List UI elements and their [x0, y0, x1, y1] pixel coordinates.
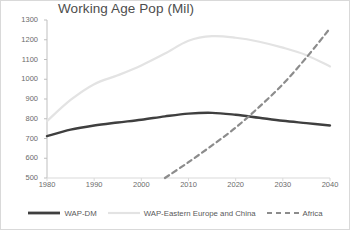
y-tick-label: 1000 [12, 75, 38, 83]
x-tick-label: 1990 [79, 181, 109, 189]
dashed-line-swatch [266, 209, 300, 217]
legend-label-2: Africa [303, 209, 323, 218]
series-line-0 [47, 113, 330, 136]
legend-entry-1[interactable]: WAP-Eastern Europe and China [107, 209, 256, 218]
x-tick-label: 2010 [174, 181, 204, 189]
x-tick-label: 2020 [221, 181, 251, 189]
legend-entry-0[interactable]: WAP-DM [27, 209, 96, 218]
series-line-2 [165, 28, 330, 178]
solid-line-swatch [27, 209, 61, 217]
chart-container: Working Age Pop (Mil) 500600700800900100… [0, 0, 350, 230]
x-tick-label: 2000 [126, 181, 156, 189]
light-line-swatch [107, 209, 141, 217]
legend-entry-2[interactable]: Africa [266, 209, 323, 218]
y-tick-label: 1200 [12, 36, 38, 44]
legend-label-0: WAP-DM [64, 209, 96, 218]
x-tick-label: 2040 [315, 181, 345, 189]
series-lines [47, 28, 330, 178]
y-tick-label: 1100 [12, 56, 38, 64]
plot-area [0, 0, 350, 230]
y-tick-label: 700 [12, 135, 38, 143]
legend-label-1: WAP-Eastern Europe and China [144, 209, 256, 218]
x-tick-label: 2030 [268, 181, 298, 189]
x-tick-label: 1980 [32, 181, 62, 189]
chart-legend: WAP-DMWAP-Eastern Europe and ChinaAfrica [0, 205, 350, 221]
y-tick-label: 800 [12, 115, 38, 123]
y-tick-label: 900 [12, 95, 38, 103]
y-tick-label: 600 [12, 154, 38, 162]
y-tick-label: 1300 [12, 16, 38, 24]
